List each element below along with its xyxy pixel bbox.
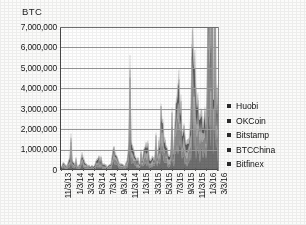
plot-top-border	[60, 27, 219, 28]
gridline	[61, 68, 218, 69]
x-axis-tick-mark	[195, 168, 196, 171]
x-axis-tick-label: 7/3/15	[176, 173, 185, 195]
gridline	[61, 109, 218, 110]
x-axis-tick-mark	[172, 168, 173, 171]
legend-item-huobi[interactable]: Huobi	[227, 99, 306, 114]
x-axis-tick-label: 11/3/13	[64, 173, 73, 198]
legend-item-label: Bitfinex	[236, 159, 264, 169]
x-axis-tick-label: 1/3/16	[209, 173, 218, 195]
x-axis-tick-label: 3/3/16	[220, 173, 229, 195]
plot-area	[60, 27, 218, 170]
plot-right-border	[218, 27, 219, 171]
legend-item-bitstamp[interactable]: Bitstamp	[227, 128, 306, 143]
y-axis-tick-label: 1,000,000	[21, 144, 57, 154]
legend-item-label: Bitstamp	[236, 130, 269, 140]
legend-swatch-icon	[227, 119, 231, 123]
x-axis-tick-label: 9/3/14	[120, 173, 129, 195]
legend-item-bitfinex[interactable]: Bitfinex	[227, 157, 306, 172]
x-axis-tick-mark	[150, 168, 151, 171]
legend-item-btcchina[interactable]: BTCChina	[227, 143, 306, 158]
x-axis-tick-label: 11/3/14	[131, 173, 140, 198]
y-axis-tick-label: 0	[52, 165, 57, 175]
x-axis-tick-mark	[83, 168, 84, 171]
chart-figure: BTC 7,000,0006,000,0005,000,0004,000,000…	[0, 0, 306, 225]
x-axis-tick-mark	[206, 168, 207, 171]
legend-item-label: Huobi	[236, 101, 258, 111]
x-axis-tick-label: 3/3/15	[154, 173, 163, 195]
x-axis-tick-label: 11/3/15	[198, 173, 207, 198]
legend-swatch-icon	[227, 133, 231, 137]
gridline	[61, 150, 218, 151]
x-axis-tick-label: 5/3/14	[98, 173, 107, 195]
y-axis-tick-label: 7,000,000	[21, 22, 57, 32]
x-axis-tick-label: 5/3/15	[165, 173, 174, 195]
y-axis-tick-label: 5,000,000	[21, 63, 57, 73]
x-axis-tick-labels: 11/3/131/3/143/3/145/3/147/3/149/3/1411/…	[60, 171, 220, 225]
x-axis-tick-mark	[184, 168, 185, 171]
x-axis-tick-mark	[61, 168, 62, 171]
x-axis-tick-label: 7/3/14	[109, 173, 118, 195]
x-axis-tick-mark	[217, 168, 218, 171]
legend-swatch-icon	[227, 162, 231, 166]
y-axis-tick-label: 6,000,000	[21, 42, 57, 52]
x-axis-tick-mark	[139, 168, 140, 171]
y-axis-tick-label: 3,000,000	[21, 104, 57, 114]
x-axis-tick-mark	[106, 168, 107, 171]
x-axis-tick-mark	[161, 168, 162, 171]
stacked-area-series	[61, 27, 218, 170]
y-axis-tick-label: 2,000,000	[21, 124, 57, 134]
y-axis-tick-labels: 7,000,0006,000,0005,000,0004,000,0003,00…	[0, 0, 57, 225]
legend-item-label: OKCoin	[236, 116, 266, 126]
x-axis-tick-mark	[128, 168, 129, 171]
gridline	[61, 47, 218, 48]
x-axis-tick-mark	[94, 168, 95, 171]
legend-swatch-icon	[227, 148, 231, 152]
x-axis-tick-label: 1/3/15	[142, 173, 151, 195]
chart-legend: HuobiOKCoinBitstampBTCChinaBitfinex	[227, 99, 306, 172]
x-axis-tick-label: 1/3/14	[76, 173, 85, 195]
gridline	[61, 129, 218, 130]
legend-item-label: BTCChina	[236, 145, 275, 155]
x-axis-tick-mark	[117, 168, 118, 171]
x-axis-tick-label: 9/3/15	[187, 173, 196, 195]
legend-swatch-icon	[227, 104, 231, 108]
x-axis-tick-mark	[72, 168, 73, 171]
x-axis-tick-label: 3/3/14	[87, 173, 96, 195]
y-axis-tick-label: 4,000,000	[21, 83, 57, 93]
legend-item-okcoin[interactable]: OKCoin	[227, 114, 306, 129]
gridline	[61, 88, 218, 89]
